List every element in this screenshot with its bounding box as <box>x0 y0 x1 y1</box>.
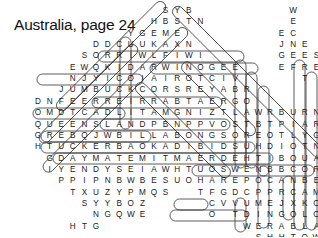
grid-letter[interactable]: O <box>183 73 194 84</box>
grid-letter[interactable]: E <box>172 27 183 38</box>
grid-letter[interactable]: O <box>125 197 136 208</box>
grid-letter[interactable]: E <box>79 95 90 106</box>
grid-letter[interactable]: D <box>91 39 102 50</box>
grid-letter[interactable]: O <box>137 141 148 152</box>
grid-letter[interactable]: B <box>276 152 287 163</box>
grid-letter[interactable]: K <box>79 141 90 152</box>
grid-letter[interactable]: O <box>207 209 218 220</box>
grid-letter[interactable]: U <box>102 84 113 95</box>
grid-letter[interactable]: D <box>172 141 183 152</box>
grid-letter[interactable]: J <box>276 39 287 50</box>
grid-letter[interactable]: T <box>288 232 299 238</box>
grid-letter[interactable]: O <box>207 163 218 174</box>
grid-letter[interactable]: T <box>195 186 206 197</box>
grid-letter[interactable]: Z <box>137 197 148 208</box>
grid-letter[interactable]: E <box>288 16 299 27</box>
grid-letter[interactable]: B <box>114 175 125 186</box>
grid-letter[interactable]: I <box>195 107 206 118</box>
grid-letter[interactable]: S <box>91 118 102 129</box>
grid-letter[interactable]: T <box>265 118 276 129</box>
grid-letter[interactable]: C <box>79 107 90 118</box>
grid-letter[interactable]: A <box>183 152 194 163</box>
grid-letter[interactable]: I <box>125 107 136 118</box>
grid-letter[interactable]: V <box>230 197 241 208</box>
grid-letter[interactable]: I <box>79 175 90 186</box>
grid-letter[interactable]: P <box>276 118 287 129</box>
grid-letter[interactable]: D <box>125 61 136 72</box>
grid-letter[interactable]: I <box>125 129 136 140</box>
grid-letter[interactable]: U <box>67 84 78 95</box>
grid-letter[interactable]: A <box>160 39 171 50</box>
grid-letter[interactable]: S <box>253 232 264 238</box>
grid-letter[interactable]: N <box>183 61 194 72</box>
grid-letter[interactable]: I <box>218 73 229 84</box>
grid-letter[interactable]: W <box>125 209 136 220</box>
grid-letter[interactable]: T <box>114 152 125 163</box>
grid-letter[interactable]: C <box>288 186 299 197</box>
grid-letter[interactable]: R <box>91 95 102 106</box>
grid-letter[interactable]: N <box>102 175 113 186</box>
grid-letter[interactable]: N <box>44 95 55 106</box>
grid-letter[interactable]: A <box>91 107 102 118</box>
grid-letter[interactable]: N <box>311 107 318 118</box>
grid-letter[interactable]: O <box>195 61 206 72</box>
grid-letter[interactable]: E <box>288 50 299 61</box>
grid-letter[interactable]: P <box>91 175 102 186</box>
grid-letter[interactable]: S <box>230 141 241 152</box>
grid-letter[interactable]: E <box>195 84 206 95</box>
grid-letter[interactable]: T <box>183 163 194 174</box>
grid-letter[interactable]: O <box>183 129 194 140</box>
grid-letter[interactable]: E <box>91 141 102 152</box>
grid-letter[interactable]: B <box>183 5 194 16</box>
grid-letter[interactable]: I <box>265 152 276 163</box>
grid-letter[interactable]: W <box>160 163 171 174</box>
grid-letter[interactable]: L <box>137 129 148 140</box>
grid-letter[interactable]: M <box>311 186 318 197</box>
grid-letter[interactable]: E <box>311 61 318 72</box>
grid-letter[interactable]: A <box>276 175 287 186</box>
grid-letter[interactable]: R <box>44 129 55 140</box>
grid-letter[interactable]: J <box>276 197 287 208</box>
grid-letter[interactable]: O <box>241 95 252 106</box>
grid-letter[interactable]: R <box>265 107 276 118</box>
grid-letter[interactable]: G <box>218 186 229 197</box>
grid-letter[interactable]: R <box>218 95 229 106</box>
grid-letter[interactable]: Y <box>125 27 136 38</box>
grid-letter[interactable]: G <box>137 27 148 38</box>
grid-letter[interactable]: I <box>276 141 287 152</box>
grid-letter[interactable]: T <box>160 152 171 163</box>
grid-letter[interactable]: D <box>91 163 102 174</box>
grid-letter[interactable]: D <box>137 118 148 129</box>
grid-letter[interactable]: W <box>79 61 90 72</box>
grid-letter[interactable]: L <box>149 50 160 61</box>
grid-letter[interactable]: Y <box>102 197 113 208</box>
grid-letter[interactable]: G <box>33 129 44 140</box>
grid-letter[interactable]: A <box>137 61 148 72</box>
grid-letter[interactable]: O <box>299 163 310 174</box>
grid-letter[interactable]: N <box>195 129 206 140</box>
grid-letter[interactable]: B <box>172 95 183 106</box>
grid-letter[interactable]: X <box>288 197 299 208</box>
grid-letter[interactable]: G <box>44 152 55 163</box>
grid-letter[interactable]: S <box>230 118 241 129</box>
grid-letter[interactable]: B <box>299 175 310 186</box>
grid-letter[interactable]: W <box>160 61 171 72</box>
grid-letter[interactable]: L <box>288 129 299 140</box>
grid-letter[interactable]: N <box>253 163 264 174</box>
grid-letter[interactable]: T <box>195 73 206 84</box>
grid-letter[interactable]: E <box>125 163 136 174</box>
grid-letter[interactable]: A <box>149 107 160 118</box>
grid-letter[interactable]: I <box>137 73 148 84</box>
grid-letter[interactable]: T <box>276 129 287 140</box>
grid-letter[interactable]: I <box>253 209 264 220</box>
grid-letter[interactable]: B <box>288 220 299 231</box>
grid-letter[interactable]: O <box>149 84 160 95</box>
grid-letter[interactable]: B <box>67 129 78 140</box>
grid-letter[interactable]: H <box>253 141 264 152</box>
grid-letter[interactable]: E <box>149 27 160 38</box>
grid-letter[interactable]: A <box>160 95 171 106</box>
grid-letter[interactable]: R <box>102 141 113 152</box>
grid-letter[interactable]: A <box>299 118 310 129</box>
grid-letter[interactable]: H <box>241 152 252 163</box>
grid-letter[interactable]: K <box>299 197 310 208</box>
